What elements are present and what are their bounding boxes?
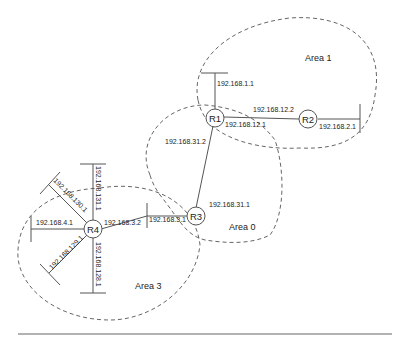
- ip-r1-lan: 192.168.1.1: [217, 80, 254, 87]
- ip-r4-lan131: 192.168.131.1: [95, 166, 102, 211]
- ip-r4-lan128: 192.168.128.1: [95, 242, 102, 287]
- ip-r2-lan: 192.168.2.1: [319, 123, 356, 130]
- area-3-boundary: [18, 186, 200, 320]
- router-r3-label: R3: [190, 211, 202, 222]
- ip-r4-r3: 192.168.3.2: [104, 219, 141, 226]
- area-1-label: Area 1: [305, 53, 332, 63]
- ip-r4-lan129: 192.168.129.1: [48, 234, 85, 271]
- router-r1[interactable]: R1: [206, 109, 224, 127]
- router-r3[interactable]: R3: [187, 207, 205, 225]
- r1-r2-link: [224, 117, 299, 119]
- ospf-network-diagram: R1 R2 R3 R4 192.168.1.1 192.168.12.1 192…: [0, 0, 395, 339]
- ip-r4-lan130: 192.168.130.1: [52, 177, 89, 214]
- router-r4-label: R4: [87, 224, 99, 235]
- area-0-label: Area 0: [229, 222, 256, 232]
- ip-r1-r2: 192.168.12.1: [225, 121, 266, 128]
- router-r2[interactable]: R2: [299, 110, 317, 128]
- ip-r2-r1: 192.168.12.2: [253, 106, 294, 113]
- ip-r4-lan4: 192.168.4.1: [36, 219, 73, 226]
- ip-r3-r1: 192.168.31.1: [209, 201, 250, 208]
- area-3-label: Area 3: [135, 281, 162, 291]
- router-r2-label: R2: [302, 114, 314, 125]
- ip-r3-r4: 192.168.3.1: [149, 216, 186, 223]
- router-r4[interactable]: R4: [84, 220, 102, 238]
- router-r1-label: R1: [209, 113, 221, 124]
- ip-r1-r3: 192.168.31.2: [165, 138, 206, 145]
